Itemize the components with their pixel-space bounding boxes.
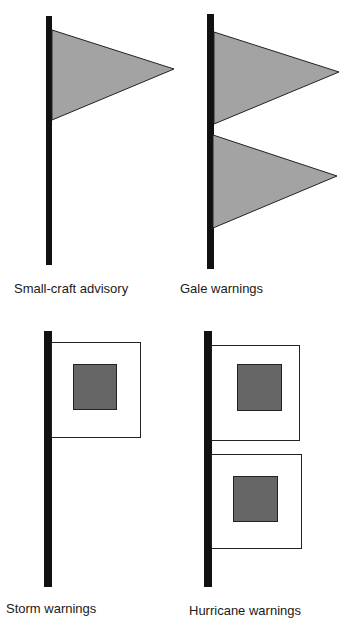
warning-flags-diagram xyxy=(0,0,350,629)
flag-pole xyxy=(44,331,52,587)
flag-pole xyxy=(204,331,212,587)
gale-warnings-signal xyxy=(207,14,339,269)
pennant-flag-lower xyxy=(213,135,337,228)
pennant-flag-upper xyxy=(214,32,339,124)
gale-warnings-label: Gale warnings xyxy=(180,281,263,296)
storm-warnings-signal xyxy=(44,331,141,587)
hurricane-warnings-label: Hurricane warnings xyxy=(189,603,301,618)
small-craft-advisory-label: Small-craft advisory xyxy=(14,281,128,296)
flag-pole xyxy=(46,16,52,265)
inner-square-lower xyxy=(234,477,278,522)
small-craft-advisory-signal xyxy=(46,16,174,265)
inner-square xyxy=(74,365,117,410)
storm-warnings-label: Storm warnings xyxy=(6,601,96,616)
hurricane-warnings-signal xyxy=(204,331,302,587)
inner-square-upper xyxy=(238,365,282,411)
pennant-flag xyxy=(52,30,174,120)
